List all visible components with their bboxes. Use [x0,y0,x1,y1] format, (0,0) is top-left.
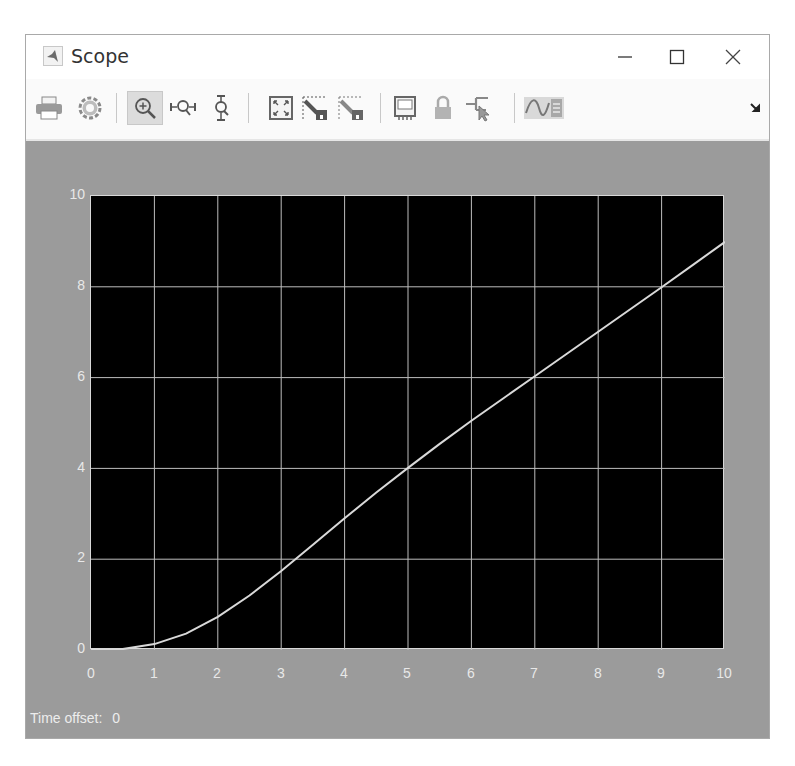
zoom-in-button[interactable] [127,91,163,125]
monitor-icon [393,95,417,121]
undock-arrow-icon [749,101,763,115]
y-tick-label: 10 [55,186,85,202]
lock-icon [432,95,454,121]
lock-button[interactable] [428,93,458,123]
matlab-logo-icon [43,46,63,66]
close-button[interactable] [710,35,756,79]
x-tick-label: 6 [456,665,486,681]
y-tick-label: 0 [55,640,85,656]
x-tick-label: 1 [139,665,169,681]
settings-button[interactable] [75,93,105,123]
y-tick-label: 6 [55,368,85,384]
x-tick-label: 5 [392,665,422,681]
plot-canvas [91,196,725,650]
y-tick-label: 8 [55,277,85,293]
x-tick-label: 7 [519,665,549,681]
time-offset-value: 0 [112,710,120,726]
zoom-to-fit-button[interactable] [266,93,296,123]
undock-button[interactable] [746,93,766,123]
minimize-icon [617,49,633,65]
highlight-block-button[interactable] [390,93,420,123]
toolbar-separator [248,93,249,123]
signal-selector-button[interactable] [463,93,493,123]
x-tick-label: 2 [202,665,232,681]
zoom-y-icon [211,94,233,122]
maximize-button[interactable] [654,35,700,79]
close-icon [724,48,742,66]
fit-to-view-icon [268,95,294,121]
title-bar[interactable]: Scope [26,35,769,79]
x-tick-label: 3 [266,665,296,681]
plot-axes[interactable] [90,195,724,649]
print-button[interactable] [34,93,64,123]
window-title: Scope [71,45,129,67]
zoom-y-button[interactable] [207,93,237,123]
toolbar-separator [116,93,117,123]
zoom-in-icon [133,96,157,120]
autoscale-alt-icon [337,95,365,121]
toolbar-separator [380,93,381,123]
x-tick-label: 10 [709,665,739,681]
minimize-button[interactable] [602,35,648,79]
scale-axes-alt-button[interactable] [336,93,366,123]
signal-legend-icon [523,95,565,121]
autoscale-icon [301,95,329,121]
scope-window: Scope [25,34,770,739]
y-tick-label: 2 [55,549,85,565]
x-tick-label: 9 [646,665,676,681]
maximize-icon [669,49,685,65]
cursor-signal-icon [464,94,492,122]
zoom-x-button[interactable] [168,93,198,123]
gear-icon [77,95,103,121]
scope-display: 10 8 6 4 2 0 0 1 2 3 4 5 6 7 8 9 10 Time… [26,141,769,738]
printer-icon [35,96,63,120]
x-tick-label: 0 [76,665,106,681]
x-tick-label: 4 [329,665,359,681]
toolbar-separator [514,93,515,123]
scale-axes-button[interactable] [300,93,330,123]
y-tick-label: 4 [55,459,85,475]
grid-lines [91,196,725,650]
toolbar [26,79,769,141]
time-offset-status: Time offset:0 [30,710,120,726]
zoom-x-icon [169,97,197,119]
x-tick-label: 8 [583,665,613,681]
legend-button[interactable] [522,93,566,123]
time-offset-label: Time offset: [30,710,102,726]
